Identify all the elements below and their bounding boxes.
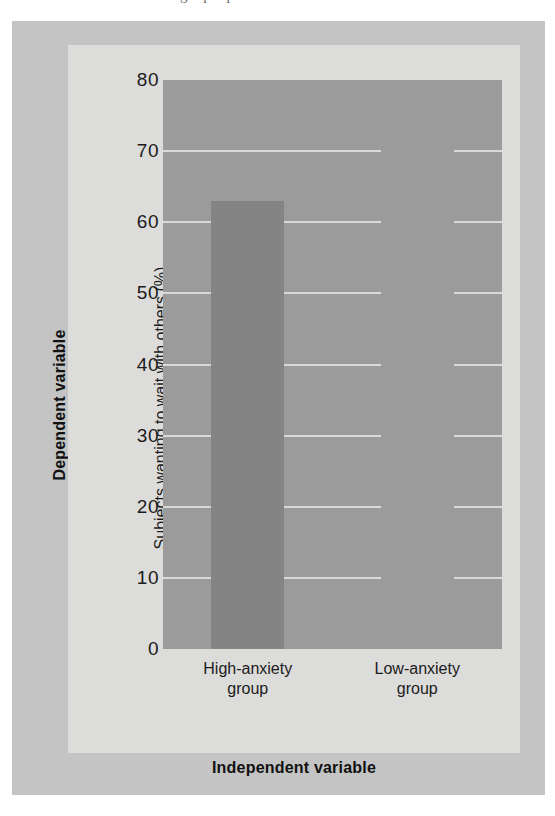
y-tick-label-60: 60: [113, 211, 159, 233]
x-tick-label-line1: Low-anxiety: [333, 659, 503, 679]
y-tick-label-70: 70: [113, 140, 159, 162]
x-tick-label-line1: High-anxiety: [163, 659, 333, 679]
x-tick-label-line2: group: [163, 679, 333, 699]
y-tick-label-80: 80: [113, 69, 159, 91]
x-tick-label-2: Low-anxietygroup: [333, 659, 503, 699]
x-axis-tick-labels: High-anxietygroupLow-anxietygroup: [163, 659, 502, 699]
y-tick-label-40: 40: [113, 354, 159, 376]
cut-off-text-ghost: g p p: [180, 0, 240, 4]
x-tick-label-1: High-anxietygroup: [163, 659, 333, 699]
independent-variable-label: Independent variable: [68, 759, 520, 777]
x-tick-label-line2: group: [333, 679, 503, 699]
dependent-variable-label: Dependent variable: [51, 255, 69, 555]
y-tick-label-20: 20: [113, 496, 159, 518]
figure-outer-frame: Dependent variable Subjects wanting to w…: [12, 21, 545, 795]
y-tick-label-0: 0: [113, 638, 159, 660]
bar-2: [381, 80, 454, 649]
bar-1: [211, 201, 284, 649]
dependent-variable-axis-group: Dependent variable: [30, 66, 52, 736]
y-tick-label-10: 10: [113, 567, 159, 589]
y-axis-tick-labels: 80706050403020100: [107, 80, 159, 649]
plot-area: [163, 80, 502, 649]
y-tick-label-50: 50: [113, 282, 159, 304]
y-tick-label-30: 30: [113, 425, 159, 447]
scan-top-cut-text: g p p: [0, 0, 555, 11]
